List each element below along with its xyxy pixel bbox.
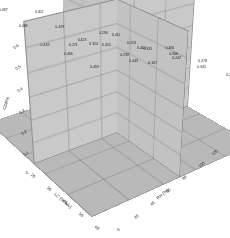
figure-3d-bar-chart: CDR% 0.6 0.5 0.4 0.3 0.2 0.1 0 LC (% w/v… bbox=[0, 0, 230, 238]
chart-3d-scene bbox=[0, 0, 230, 238]
bar-face-front bbox=[208, 163, 221, 169]
